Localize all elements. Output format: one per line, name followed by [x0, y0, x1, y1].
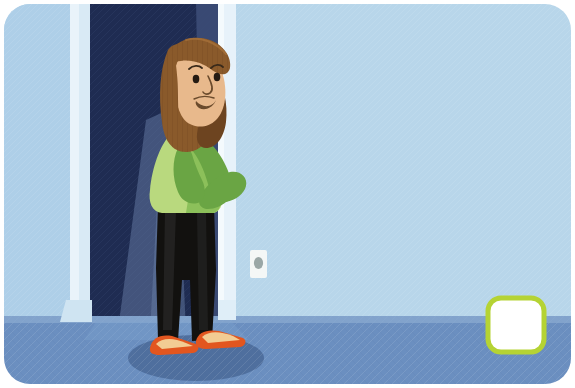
illustration-canvas [0, 0, 575, 388]
eye-right [214, 73, 221, 81]
left-wall-texture [0, 0, 72, 330]
callout-box-frame[interactable] [488, 298, 544, 352]
light-switch[interactable] [250, 250, 267, 278]
light-switch-button[interactable] [254, 257, 263, 269]
door-frame-left-highlight [70, 0, 79, 330]
baseboard-right [218, 300, 236, 320]
eye-left [193, 75, 200, 83]
callout-box[interactable] [488, 298, 544, 352]
illustration-scene [0, 0, 575, 388]
